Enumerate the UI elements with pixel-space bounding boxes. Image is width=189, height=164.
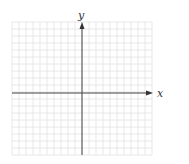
y-axis-arrow-icon [80, 22, 85, 29]
coordinate-plane: x y [0, 0, 189, 164]
x-axis-label: x [157, 87, 164, 100]
y-axis-label: y [77, 9, 85, 22]
